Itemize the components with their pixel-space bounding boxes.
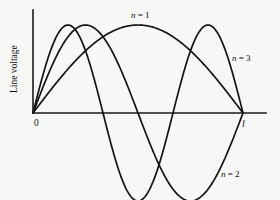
curve-annotation-n2: n = 2 bbox=[221, 169, 240, 179]
wave-curve-n1 bbox=[33, 25, 243, 113]
x-axis-end-label: l bbox=[242, 118, 245, 129]
curve-annotation-n1-eq: = bbox=[136, 10, 146, 20]
axis-labels-group: Line voltage 0 l bbox=[9, 45, 245, 129]
curve-annotations-group: n = 1 n = 3 n = 2 bbox=[131, 10, 251, 179]
curve-annotation-n2-eq: = bbox=[226, 169, 236, 179]
y-axis-title: Line voltage bbox=[9, 45, 19, 93]
chart-svg: Line voltage 0 l n = 1 n = 3 n = 2 bbox=[0, 0, 280, 200]
x-axis-origin-label: 0 bbox=[34, 118, 39, 128]
curve-annotation-n2-value: 2 bbox=[235, 169, 240, 179]
curve-annotation-n3-value: 3 bbox=[246, 53, 251, 63]
curve-annotation-n3-eq: = bbox=[237, 53, 247, 63]
curve-annotation-n3: n = 3 bbox=[232, 53, 251, 63]
curve-annotation-n1: n = 1 bbox=[131, 10, 150, 20]
curve-annotation-n1-value: 1 bbox=[145, 10, 150, 20]
line-voltage-chart: Line voltage 0 l n = 1 n = 3 n = 2 bbox=[0, 0, 280, 200]
